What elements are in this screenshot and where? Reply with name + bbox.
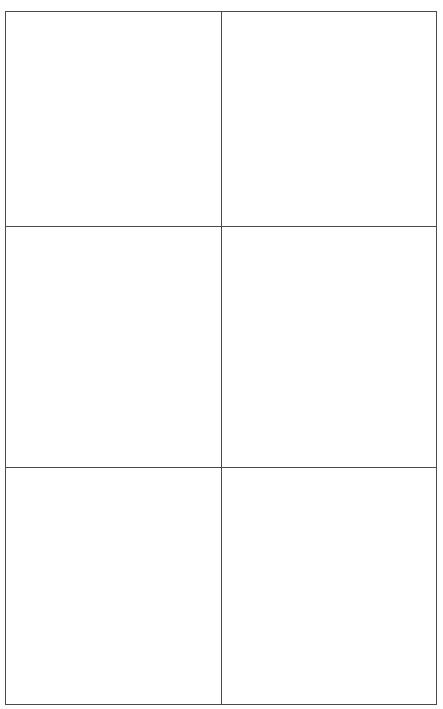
cell-text [222, 468, 436, 476]
cell-text [6, 12, 221, 20]
grid-table [5, 11, 437, 705]
grid-cell-r2-c1 [6, 227, 222, 468]
grid-cell-r1-c1 [6, 12, 222, 227]
grid-cell-r3-c2 [222, 468, 436, 704]
page [0, 0, 443, 709]
cell-text [222, 227, 436, 235]
cell-text [222, 12, 436, 20]
cell-text [6, 468, 221, 476]
grid-cell-r1-c2 [222, 12, 436, 227]
grid-cell-r2-c2 [222, 227, 436, 468]
cell-text [6, 227, 221, 235]
grid-cell-r3-c1 [6, 468, 222, 704]
